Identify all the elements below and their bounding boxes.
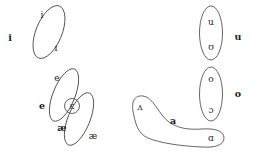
group-label-o: o [235, 88, 241, 99]
ipa-symbol-u-close: u [208, 17, 214, 27]
ipa-symbol-e-close-mid: e [54, 73, 59, 83]
ipa-symbol-open-o: ɔ [208, 105, 213, 115]
group-label-a: a [170, 115, 176, 126]
vowel-group-o[interactable]: o ɔ o [200, 67, 242, 121]
ipa-symbol-ash: æ [89, 131, 97, 141]
vowel-diagram: i ɪ i e e æ æ ɛ u ʊ u [0, 0, 254, 156]
ellipse-group-e [43, 65, 84, 125]
vowel-group-e[interactable]: e e [39, 65, 85, 125]
vowel-group-i[interactable]: i ɪ i [8, 1, 71, 63]
group-label-i: i [8, 32, 12, 43]
vowel-group-u[interactable]: u ʊ u [200, 6, 242, 60]
vowel-group-ae[interactable]: æ æ [57, 89, 99, 149]
ellipse-group-u [200, 6, 223, 60]
ipa-symbol-turned-v: ʌ [136, 102, 143, 112]
vowel-diagram-canvas: i ɪ i e e æ æ ɛ u ʊ u [0, 0, 254, 156]
ellipse-group-i [26, 1, 71, 63]
ipa-symbol-epsilon: ɛ [70, 101, 75, 111]
vowel-group-epsilon-overlap[interactable]: ɛ [65, 99, 80, 114]
ipa-symbol-i-close: i [41, 10, 44, 20]
ipa-symbol-o-close-mid: o [208, 74, 213, 84]
group-label-ae: æ [57, 122, 66, 133]
ipa-symbol-script-a: ɑ [208, 133, 214, 143]
group-label-e: e [39, 100, 45, 111]
group-label-u: u [235, 31, 242, 42]
ipa-symbol-upsilon: ʊ [208, 42, 214, 52]
ipa-symbol-small-capital-i: ɪ [55, 43, 58, 53]
